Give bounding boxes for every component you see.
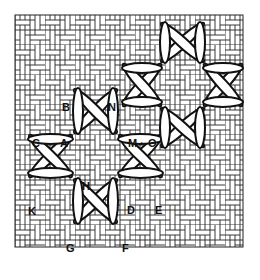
point-label-C: C [32,138,40,149]
point-label-D: D [127,205,135,216]
point-label-M: M [128,138,137,149]
point-label-N: N [108,102,116,113]
point-label-B: B [62,102,70,113]
point-label-dot: · [140,138,144,149]
point-label-O: O [148,138,157,149]
point-label-A: A [60,138,68,149]
point-label-K: K [28,206,36,217]
point-label-E: E [155,205,162,216]
point-label-H: H [82,181,90,192]
point-label-G: G [66,243,75,254]
point-label-F: F [122,243,129,254]
